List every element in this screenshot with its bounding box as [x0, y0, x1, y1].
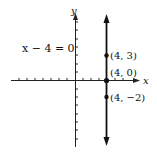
line-up-arrow-icon	[104, 14, 110, 23]
point-label-4-3: (4, 3)	[110, 50, 137, 61]
coordinate-plane: x y (4, 3) (4, 0) (4, −2)	[0, 0, 157, 153]
x-axis-arrow-icon	[133, 78, 140, 83]
point-label-4-neg2: (4, −2)	[110, 92, 145, 103]
point-4-0	[104, 78, 109, 83]
x-axis-label: x	[143, 75, 149, 86]
equation-label: x − 4 = 0	[22, 42, 75, 55]
y-axis-label: y	[70, 5, 77, 16]
point-label-4-0: (4, 0)	[110, 67, 137, 78]
point-4-3	[104, 53, 108, 57]
line-down-arrow-icon	[104, 137, 110, 146]
point-4-neg2	[104, 95, 108, 99]
